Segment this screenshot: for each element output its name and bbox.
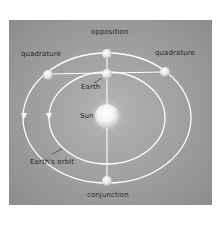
- label-sun: Sun: [80, 113, 94, 120]
- label-conjunction: conjunction: [87, 192, 129, 199]
- sun-icon: [95, 104, 119, 128]
- label-quadrature-left: quadrature: [21, 51, 61, 58]
- planet-quadrature-left-icon: [43, 70, 53, 80]
- earth-icon: [102, 69, 112, 79]
- label-earth: Earth: [81, 84, 100, 91]
- label-opposition: opposition: [91, 29, 128, 36]
- planet-opposition-icon: [102, 49, 112, 59]
- planet-orbit-arrow-icon: [21, 113, 27, 119]
- planet-quadrature-right-icon: [160, 67, 170, 77]
- label-earths-orbit: Earth's orbit: [30, 159, 74, 166]
- planet-conjunction-icon: [102, 176, 112, 186]
- earth-orbit-arrow-icon: [46, 113, 52, 119]
- earths-orbit-label-leader: [52, 149, 62, 154]
- label-quadrature-right: quadrature: [155, 50, 195, 57]
